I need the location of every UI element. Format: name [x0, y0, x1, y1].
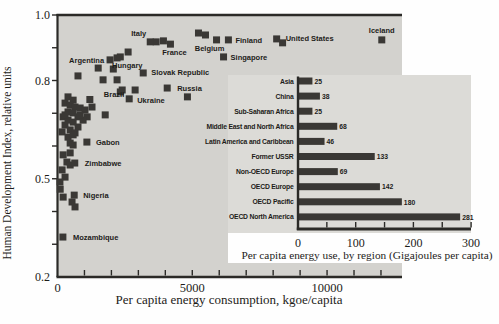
inset-tick-label: 200 [404, 236, 422, 250]
country-label: Hungary [112, 61, 143, 70]
x-axis-title: Per capita energy consumption, kgoe/capi… [116, 292, 343, 307]
inset-tick-label: 100 [347, 236, 365, 250]
scatter-point [59, 166, 66, 173]
bar-category-label: Non-OECD Europe [236, 168, 294, 176]
bar-value-label: 142 [382, 183, 394, 190]
bar-value-label: 180 [404, 199, 416, 206]
bar-category-label: OECD Pacific [252, 198, 293, 205]
bar-category-label: OECD Europe [251, 183, 294, 191]
country-label: Slovak Republic [151, 68, 209, 77]
bar [298, 198, 402, 205]
country-label: Iceland [369, 26, 395, 35]
bar-category-label: Former USSR [252, 153, 294, 160]
scatter-point-zimbabwe [71, 160, 78, 167]
scatter-point [132, 86, 139, 93]
scatter-point [102, 111, 109, 118]
scatter-point-russia [164, 85, 171, 92]
scatter-point [60, 194, 67, 201]
bar [298, 153, 375, 160]
country-label: United States [286, 34, 334, 43]
country-label: Argentina [69, 56, 105, 65]
scatter-point [100, 76, 107, 83]
country-label: Nigeria [83, 191, 109, 200]
scatter-point-france [167, 41, 174, 48]
country-label: Finland [235, 36, 262, 45]
scatter-point [125, 49, 132, 56]
scatter-point [62, 111, 69, 118]
bar [298, 183, 380, 190]
inset-axis-title: Per capita energy use, by region (Gigajo… [241, 249, 492, 262]
bar-category-label: Latin America and Caribbean [205, 138, 293, 145]
country-label: Belgium [195, 44, 225, 53]
inset-tick-label: 0 [295, 236, 301, 250]
figure-canvas: 05000100001.00.80.50.2ItalyFranceBelgium… [0, 0, 499, 324]
bar [298, 123, 337, 130]
scatter-point [77, 111, 84, 118]
scatter-point [95, 65, 102, 72]
bar-value-label: 68 [339, 123, 347, 130]
bar [298, 108, 312, 115]
bar-value-label: 25 [314, 78, 322, 85]
bar-category-label: OECD North America [229, 213, 294, 220]
country-label: Russia [177, 84, 202, 93]
scatter-point-nigeria [71, 192, 78, 199]
scatter-point [195, 30, 202, 37]
y-tick-label: 0.8 [35, 74, 50, 88]
scatter-point [89, 104, 96, 111]
scatter-point-italy [147, 38, 154, 45]
bar-category-label: Sub-Saharan Africa [234, 108, 294, 115]
inset-bar-chart: Asia25China38Sub-Saharan Africa25Middle … [205, 75, 499, 263]
scatter-point-slovak-republic [140, 69, 147, 76]
hdi-energy-figure: 05000100001.00.80.50.2ItalyFranceBelgium… [0, 0, 499, 324]
scatter-point [67, 149, 74, 156]
country-label: Zimbabwe [85, 159, 122, 168]
scatter-point-belgium [213, 36, 220, 43]
scatter-point [56, 179, 63, 186]
scatter-point [202, 31, 209, 38]
inset-tick-label: 300 [462, 236, 480, 250]
bar [298, 78, 312, 85]
country-label: Singapore [231, 53, 268, 62]
scatter-point-singapore [220, 53, 227, 60]
scatter-point [72, 203, 79, 210]
scatter-point-united-states [273, 35, 280, 42]
scatter-point-gabon [83, 139, 90, 146]
country-label: Ukraine [137, 96, 165, 105]
scatter-point [114, 76, 121, 83]
scatter-point [70, 142, 77, 149]
country-label: Gabon [96, 138, 120, 147]
scatter-point-hungary [117, 53, 124, 60]
country-label: Mozambique [73, 233, 118, 242]
y-tick-label: 1.0 [35, 8, 50, 22]
scatter-point [57, 186, 64, 193]
bar-value-label: 281 [462, 214, 474, 221]
bar-category-label: China [276, 93, 294, 100]
bar [298, 138, 325, 145]
bar-value-label: 46 [327, 138, 335, 145]
scatter-point [74, 72, 81, 79]
scatter-point [70, 131, 77, 138]
bar [298, 213, 460, 220]
scatter-point-finland [225, 36, 232, 43]
country-label: Brazil [104, 90, 124, 99]
scatter-point [160, 37, 167, 44]
bar-value-label: 133 [377, 153, 389, 160]
bar-category-label: Asia [280, 78, 294, 85]
bar-value-label: 69 [340, 168, 348, 175]
y-tick-label: 0.5 [35, 172, 50, 186]
scatter-point-ukraine [126, 95, 133, 102]
scatter-point-brazil [86, 96, 93, 103]
scatter-point-mozambique [59, 234, 66, 241]
bar-value-label: 38 [322, 93, 330, 100]
scatter-point [60, 151, 67, 158]
bar [298, 168, 338, 175]
bar-value-label: 25 [314, 108, 322, 115]
country-label: France [162, 48, 187, 57]
scatter-point [184, 93, 191, 100]
y-axis-title: Human Development Index, relative units [1, 66, 14, 260]
scatter-point-iceland [378, 36, 385, 43]
bar-category-label: Middle East and North Africa [206, 123, 293, 130]
x-tick-label: 0 [54, 281, 60, 295]
bar [298, 93, 320, 100]
country-label: Italy [131, 29, 147, 38]
